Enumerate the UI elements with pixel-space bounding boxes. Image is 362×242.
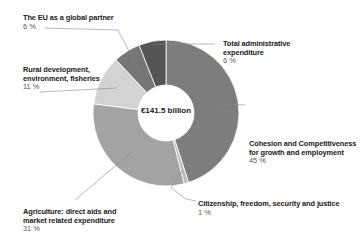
label-rural-development: Rural development, environment, fisherie… — [23, 66, 100, 92]
label-percent: 31 % — [23, 225, 116, 234]
label-eu-global-partner: The EU as a global partner 6 % — [23, 14, 114, 31]
label-percent: 6 % — [23, 23, 114, 32]
label-administrative: Total administrative expenditure 6 % — [223, 40, 290, 66]
label-cohesion: Cohesion and Competitiveness for growth … — [249, 140, 356, 166]
label-percent: 45 % — [249, 157, 356, 166]
label-percent: 6 % — [223, 57, 290, 66]
label-title: Citizenship, freedom, security and justi… — [198, 200, 340, 209]
center-total-label: €141.5 billion — [131, 106, 201, 115]
label-citizenship: Citizenship, freedom, security and justi… — [198, 200, 340, 217]
label-percent: 1 % — [198, 209, 340, 218]
label-agriculture: Agriculture: direct aids and market rela… — [23, 208, 116, 234]
label-title: The EU as a global partner — [23, 14, 114, 23]
leader-line-2 — [75, 152, 132, 200]
donut-slice-2 — [93, 104, 184, 186]
label-percent: 11 % — [23, 83, 100, 92]
